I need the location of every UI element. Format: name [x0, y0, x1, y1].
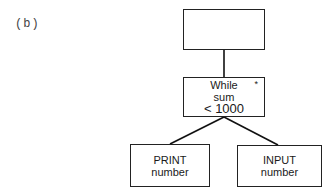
edge-while-print: [170, 117, 224, 144]
node-text-line: < 1000: [204, 103, 244, 115]
node-text-line: INPUT: [263, 154, 296, 166]
node-text-line: PRINT: [154, 154, 187, 166]
node-top-empty: [183, 9, 265, 50]
node-input-number: INPUT number: [237, 145, 322, 187]
node-text-line: number: [151, 166, 188, 178]
node-text-line: number: [261, 166, 298, 178]
iteration-marker: *: [254, 80, 258, 89]
node-print-number: PRINT number: [130, 144, 210, 187]
node-text-line: While: [210, 79, 238, 91]
edge-while-input: [224, 117, 278, 145]
node-while-loop: * While sum < 1000: [183, 77, 265, 117]
